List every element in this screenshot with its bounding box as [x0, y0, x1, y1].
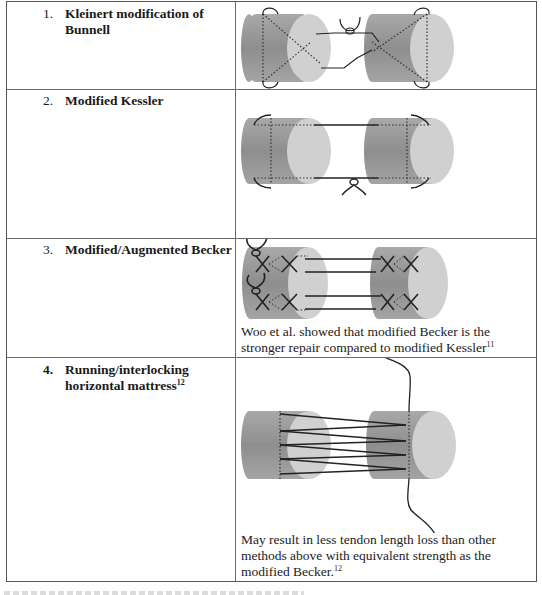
- note-line: stronger repair compared to modified Kes…: [241, 340, 487, 355]
- note-line: modified Becker.: [241, 564, 334, 579]
- note-line: Woo et al. showed that modified Becker i…: [241, 324, 490, 339]
- running-interlocking-mattress-diagram: [236, 358, 536, 533]
- technique-figure-cell: Woo et al. showed that modified Becker i…: [236, 239, 536, 357]
- title-line: Bunnell: [65, 22, 110, 37]
- title-line: Kleinert modification of: [65, 6, 204, 21]
- modified-kessler-suture-diagram: [236, 90, 536, 239]
- modified-becker-suture-diagram: [236, 239, 536, 321]
- technique-name-cell: 4.Running/interlockinghorizontal mattres…: [7, 358, 236, 581]
- technique-figure-cell: [236, 2, 536, 89]
- row-number: 1.: [43, 6, 65, 22]
- note-line: May result in less tendon length loss th…: [241, 532, 496, 547]
- title-line: horizontal mattress: [65, 378, 177, 393]
- technique-note: Woo et al. showed that modified Becker i…: [241, 324, 494, 356]
- citation-ref: 12: [177, 378, 185, 387]
- citation-ref: 12: [334, 564, 342, 573]
- technique-name-cell: 3.Modified/Augmented Becker: [7, 239, 236, 357]
- title-line: Running/interlocking: [65, 362, 189, 377]
- title-line: Modified Kessler: [65, 93, 164, 109]
- kleinert-bunnell-suture-diagram: [236, 2, 536, 90]
- technique-title: 4.Running/interlockinghorizontal mattres…: [43, 362, 189, 394]
- technique-note: May result in less tendon length loss th…: [241, 532, 496, 580]
- technique-figure-cell: [236, 90, 536, 238]
- row-number: 2.: [43, 93, 65, 109]
- technique-figure-cell: May result in less tendon length loss th…: [236, 358, 536, 581]
- table-row: 3.Modified/Augmented Becker: [7, 239, 536, 358]
- technique-name-cell: 2.Modified Kessler: [7, 90, 236, 238]
- clipped-caption-text: [4, 591, 304, 595]
- note-line: methods above with equivalent strength a…: [241, 548, 491, 563]
- technique-title: 3.Modified/Augmented Becker: [43, 242, 232, 258]
- technique-name-cell: 1.Kleinert modification ofBunnell: [7, 2, 236, 89]
- clipped-caption: [0, 586, 542, 595]
- title-line: Modified/Augmented Becker: [65, 242, 232, 258]
- suture-techniques-table: 1.Kleinert modification ofBunnell: [6, 1, 537, 582]
- row-number: 4.: [43, 362, 65, 378]
- technique-title: 1.Kleinert modification ofBunnell: [43, 6, 204, 38]
- technique-title: 2.Modified Kessler: [43, 93, 164, 109]
- row-number: 3.: [43, 242, 65, 258]
- table-row: 1.Kleinert modification ofBunnell: [7, 2, 536, 90]
- table-row: 2.Modified Kessler: [7, 90, 536, 239]
- citation-ref: 11: [487, 340, 495, 349]
- table-row: 4.Running/interlockinghorizontal mattres…: [7, 358, 536, 581]
